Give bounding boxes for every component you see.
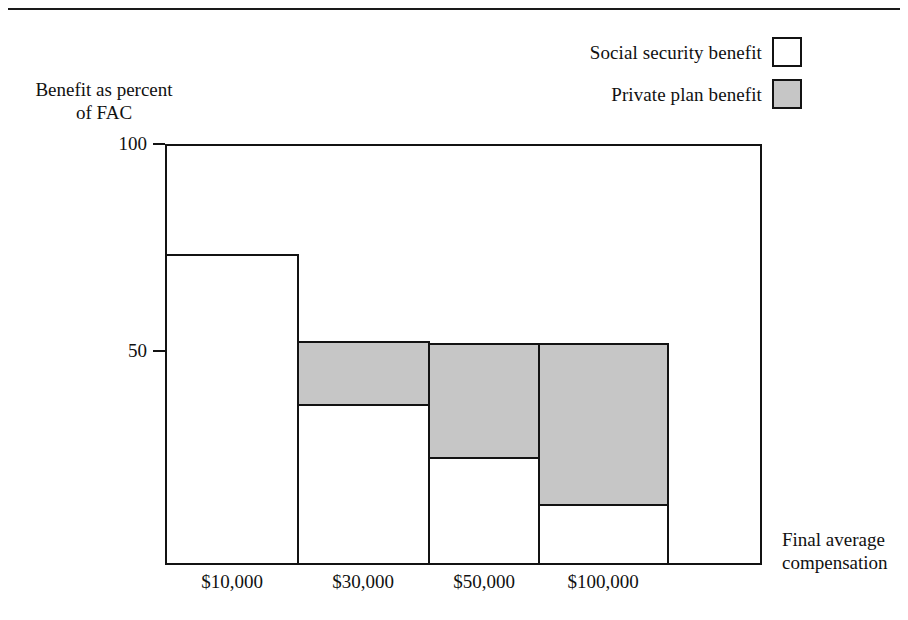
top-divider-rule [8,8,900,10]
y-axis-title-line1: Benefit as percent [14,78,194,101]
y-tick-label-50: 50 [128,341,147,360]
legend-label-social-security: Social security benefit [590,43,762,62]
y-tick-mark-50 [153,350,165,352]
bar-50000[interactable] [428,343,540,565]
bar-100000[interactable] [538,343,669,565]
bar-100000-social-security-segment [540,506,667,563]
bar-10000-social-security-segment [167,256,297,563]
x-axis-title: Final average compensation [782,528,906,574]
x-axis-tick-labels: $10,000 $30,000 $50,000 $100,000 [165,572,762,602]
y-tick-label-100: 100 [119,134,148,153]
bar-100000-private-plan-segment [540,345,667,506]
x-axis-title-line2: compensation [782,551,906,574]
chart-figure: Social security benefit Private plan ben… [0,0,908,620]
y-tick-50: 50 [108,341,165,360]
y-axis-title: Benefit as percent of FAC [14,78,194,124]
x-tick-label-30000: $30,000 [293,572,433,593]
legend-item-social-security: Social security benefit [452,34,802,70]
legend-swatch-gray-icon [772,79,802,109]
legend-item-private-plan: Private plan benefit [452,76,802,112]
y-tick-mark-100 [153,143,165,145]
legend-swatch-white-icon [772,37,802,67]
bar-50000-social-security-segment [430,459,538,563]
y-tick-100: 100 [108,134,165,153]
bar-10000[interactable] [165,254,299,565]
y-axis-title-line2: of FAC [14,101,194,124]
x-tick-label-100000: $100,000 [533,572,673,593]
bars-layer [165,144,762,565]
bar-30000-social-security-segment [299,406,428,563]
chart-legend: Social security benefit Private plan ben… [452,34,802,118]
x-tick-label-10000: $10,000 [162,572,302,593]
bar-30000[interactable] [297,341,430,565]
bar-50000-private-plan-segment [430,345,538,459]
x-axis-title-line1: Final average [782,528,906,551]
bar-30000-private-plan-segment [299,343,428,406]
legend-label-private-plan: Private plan benefit [611,85,762,104]
